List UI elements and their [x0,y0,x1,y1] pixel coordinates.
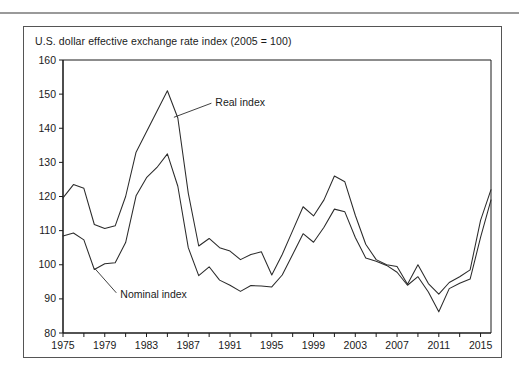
y-tick-label: 130 [38,156,56,168]
y-tick-label: 110 [39,224,56,236]
x-tick-label: 2007 [385,339,409,351]
y-tick-label: 80 [44,327,56,339]
y-tick-label: 100 [38,258,56,270]
x-tick-label: 1975 [51,339,75,351]
x-axis-ticks: 1975197919831987199119951999200320072011… [51,333,492,351]
x-tick-label: 2011 [428,339,451,351]
x-tick-label: 1983 [135,339,159,351]
x-tick-label: 2015 [469,339,493,351]
x-tick-label: 2003 [344,339,368,351]
y-axis-ticks: 8090100110120130140150160 [38,54,63,339]
x-tick-label: 1991 [218,339,242,351]
top-divider-rule [0,12,519,14]
y-tick-label: 140 [38,122,56,134]
y-tick-label: 120 [38,190,56,202]
x-tick-label: 1979 [93,339,117,351]
series-line-real-index [63,91,491,294]
x-tick-label: 1999 [302,339,326,351]
y-tick-label: 160 [38,54,56,66]
annotation-nominal-index: Nominal index [120,288,187,300]
x-tick-label: 1987 [177,339,201,351]
figure-card: U.S. dollar effective exchange rate inde… [23,26,502,358]
y-tick-label: 150 [38,88,56,100]
annotation-real-index: Real index [215,96,265,108]
y-tick-label: 90 [44,292,56,304]
series-lines [63,91,491,312]
exchange-rate-line-chart: 8090100110120130140150160 19751979198319… [24,27,501,357]
x-tick-label: 1995 [260,339,284,351]
